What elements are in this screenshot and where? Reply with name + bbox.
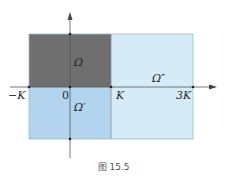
dot-y-bottom <box>69 138 72 141</box>
dot-origin <box>69 86 72 89</box>
dot-y-top <box>69 33 72 36</box>
label-omega-prime: Ω′ <box>74 102 86 113</box>
tick-label-k: K <box>116 90 124 101</box>
dot-3k <box>192 86 195 89</box>
figure-caption: 图 15.5 <box>0 160 227 173</box>
tick-label-3k: 3K <box>176 90 191 101</box>
label-omega-double-prime: Ω″ <box>152 73 165 84</box>
label-omega: Ω <box>74 57 83 68</box>
y-axis-arrow-icon <box>68 12 73 20</box>
dot-k <box>110 86 113 89</box>
dot-neg-k <box>28 86 31 89</box>
tick-label-neg-k: −K <box>8 90 25 101</box>
x-axis-arrow-icon <box>209 85 217 90</box>
tick-label-zero: 0 <box>62 90 69 101</box>
region-omega-double-prime <box>111 34 193 139</box>
